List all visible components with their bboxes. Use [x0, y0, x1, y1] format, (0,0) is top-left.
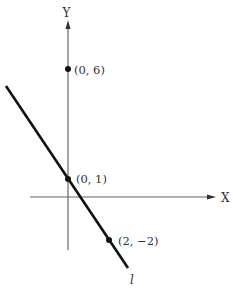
point-2-neg2: [106, 237, 112, 243]
point-0-6: [65, 66, 71, 72]
x-axis-arrow-icon: [207, 195, 216, 200]
x-axis-label: X: [221, 191, 230, 205]
diagram-canvas: Y X l (0, 6) (0, 1) (2, −2): [0, 0, 236, 290]
point-2-neg2-label: (2, −2): [118, 234, 159, 248]
coordinate-diagram: Y X l (0, 6) (0, 1) (2, −2): [0, 0, 236, 290]
y-axis-arrow-icon: [66, 20, 71, 29]
point-0-1: [65, 176, 71, 182]
line-label: l: [130, 273, 134, 287]
y-axis-label: Y: [62, 6, 72, 20]
point-0-1-label: (0, 1): [76, 172, 107, 186]
point-0-6-label: (0, 6): [74, 63, 105, 77]
